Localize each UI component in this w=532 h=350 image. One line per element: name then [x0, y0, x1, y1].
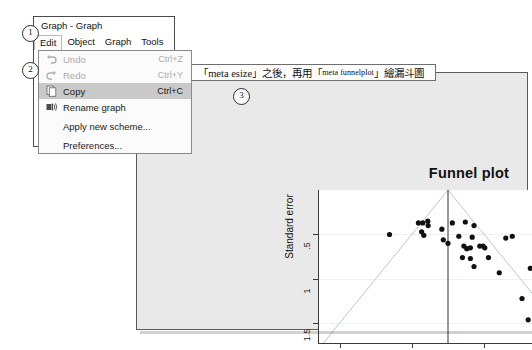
menu-option-undo-label: Undo [63, 54, 86, 65]
study-data-point [441, 237, 446, 242]
menu-bar[interactable]: Edit Object Graph Tools [34, 34, 174, 50]
x-axis-line [318, 343, 532, 344]
study-data-point [528, 266, 532, 271]
annotation-text-part2: 」繪漏斗圖 [374, 65, 424, 80]
menu-option-copy[interactable]: Copy Ctrl+C [39, 83, 191, 99]
menu-item-object[interactable]: Object [62, 35, 99, 49]
menu-option-apply-new-scheme[interactable]: Apply new scheme... [39, 118, 191, 134]
undo-arrow-icon [45, 53, 58, 65]
menu-option-apply-new-scheme-label: Apply new scheme... [63, 121, 151, 132]
menu-option-redo[interactable]: Redo Ctrl+Y [39, 67, 191, 83]
study-data-point [460, 255, 465, 260]
x-tick [484, 344, 485, 348]
study-data-point [470, 235, 475, 240]
menu-option-preferences-label: Preferences... [63, 140, 122, 151]
annotation-text-part1: 「meta esize」之後，再用「 [198, 65, 322, 80]
step-marker-3: 3 [233, 88, 250, 105]
menu-option-undo[interactable]: Undo Ctrl+Z [39, 51, 191, 67]
study-data-point [468, 256, 473, 261]
y-tick [313, 279, 318, 280]
y-tick [313, 323, 318, 324]
y-axis-label: Standard error [284, 167, 295, 287]
study-data-point [450, 220, 455, 225]
study-data-point [456, 234, 461, 239]
copy-page-icon [45, 85, 58, 97]
y-tick-label: 1.5 [302, 322, 312, 348]
menu-item-graph[interactable]: Graph [100, 35, 136, 49]
menu-option-undo-accel: Ctrl+Z [158, 54, 183, 64]
menu-option-rename-graph-label: Rename graph [63, 102, 126, 113]
study-data-point [526, 317, 531, 322]
study-data-point [463, 219, 468, 224]
study-data-point [482, 245, 487, 250]
menu-option-redo-accel: Ctrl+Y [158, 70, 183, 80]
y-tick-label: .5 [302, 233, 312, 259]
plot-title: Funnel plot [273, 165, 532, 181]
study-data-point [510, 234, 515, 239]
step-marker-2: 2 [22, 62, 39, 79]
menu-option-copy-accel: Ctrl+C [157, 86, 183, 96]
y-tick [313, 234, 318, 235]
annotation-command-name: meta funnelplot [322, 68, 374, 77]
study-data-point [519, 296, 524, 301]
edit-menu-dropdown[interactable]: Undo Ctrl+Z Redo Ctrl+Y Copy Ctrl+C [38, 50, 192, 154]
study-data-point [425, 219, 430, 224]
window-title: Graph - Graph [34, 17, 174, 34]
study-data-point [471, 223, 476, 228]
study-data-point [468, 245, 473, 250]
rename-graph-icon [45, 101, 58, 113]
step-marker-1: 1 [22, 25, 39, 42]
menu-option-preferences[interactable]: Preferences... [39, 137, 191, 153]
study-data-point [497, 270, 502, 275]
stata-graph-window[interactable]: Funnel plot Standard error Log odds-rati… [136, 72, 528, 330]
menu-option-redo-label: Redo [63, 70, 86, 81]
study-data-point [421, 233, 426, 238]
funnel-plot-graphics [318, 190, 532, 343]
x-tick [340, 344, 341, 348]
redo-arrow-icon [45, 69, 58, 81]
study-data-point [439, 227, 444, 232]
x-tick [412, 344, 413, 348]
menu-item-tools[interactable]: Tools [136, 35, 168, 49]
y-tick-label: 1 [302, 278, 312, 304]
pseudo-ci-left-line [323, 190, 448, 343]
study-data-point [426, 223, 431, 228]
study-data-point [420, 220, 425, 225]
y-axis-line [318, 190, 319, 343]
graph-editor-window[interactable]: Graph - Graph Edit Object Graph Tools Un… [33, 16, 175, 147]
study-data-point [486, 255, 491, 260]
menu-option-rename-graph[interactable]: Rename graph [39, 99, 191, 115]
pseudo-ci-right-line [448, 190, 532, 343]
study-data-point [445, 241, 450, 246]
study-data-point [503, 235, 508, 240]
funnel-plot: Funnel plot Standard error Log odds-rati… [273, 163, 532, 350]
study-data-point [471, 264, 476, 269]
menu-option-copy-label: Copy [63, 86, 85, 97]
study-data-point [387, 232, 392, 237]
annotation-callout: 「meta esize」之後，再用「meta funnelplot」繪漏斗圖 [186, 64, 436, 81]
